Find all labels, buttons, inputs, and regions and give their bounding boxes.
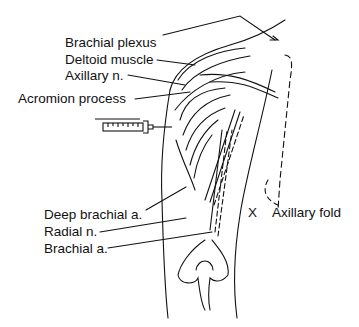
label-deltoid-muscle: Deltoid muscle xyxy=(65,53,154,67)
label-axillary-n: Axillary n. xyxy=(65,69,124,83)
label-axillary-fold: Axillary fold xyxy=(272,206,341,220)
leader-acromion-process xyxy=(135,92,190,99)
anatomy-diagram: Brachial plexus Deltoid muscle Axillary … xyxy=(0,0,359,327)
arm-illustration xyxy=(0,0,359,327)
leader-deep-brachial-a xyxy=(146,187,186,210)
leader-brachial-plexus xyxy=(163,16,275,40)
leader-deltoid-muscle xyxy=(157,60,195,65)
syringe-icon xyxy=(95,119,172,133)
label-deep-brachial-a: Deep brachial a. xyxy=(44,208,142,222)
label-brachial-plexus: Brachial plexus xyxy=(65,36,157,50)
axillary-fold-marker: X xyxy=(248,206,257,220)
label-acromion-process: Acromion process xyxy=(18,92,126,106)
leader-brachial-a xyxy=(108,232,212,248)
label-brachial-a: Brachial a. xyxy=(44,242,108,256)
label-radial-n: Radial n. xyxy=(44,225,97,239)
